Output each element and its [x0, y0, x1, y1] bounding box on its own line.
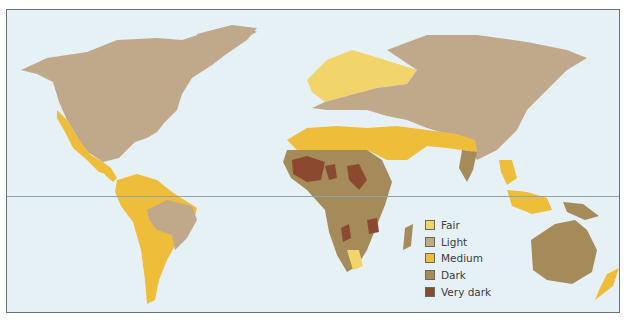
region-new-zealand [595, 268, 619, 300]
legend-label: Dark [441, 269, 466, 281]
legend-label: Medium [441, 252, 483, 264]
legend-label: Fair [441, 219, 460, 231]
region-new-guinea [563, 202, 599, 220]
legend-label: Very dark [441, 286, 491, 298]
region-australia [531, 220, 597, 284]
region-india [459, 150, 477, 182]
swatch-very-dark [425, 287, 435, 297]
region-greenland [197, 25, 257, 65]
legend: Fair Light Medium Dark Very dark [425, 217, 491, 300]
region-central-america [103, 162, 117, 182]
swatch-fair [425, 220, 435, 230]
legend-item-very-dark: Very dark [425, 283, 491, 300]
region-zambia-very-dark [367, 218, 379, 234]
region-indonesia [507, 190, 552, 214]
equator-line [7, 196, 619, 197]
map-frame [6, 9, 620, 313]
legend-item-dark: Dark [425, 267, 491, 284]
legend-item-fair: Fair [425, 217, 491, 234]
world-map [7, 10, 620, 313]
swatch-dark [425, 270, 435, 280]
legend-item-light: Light [425, 234, 491, 251]
legend-label: Light [441, 236, 467, 248]
region-southeast-asia [499, 160, 517, 185]
region-madagascar [403, 224, 413, 250]
swatch-light [425, 237, 435, 247]
swatch-medium [425, 253, 435, 263]
legend-item-medium: Medium [425, 250, 491, 267]
